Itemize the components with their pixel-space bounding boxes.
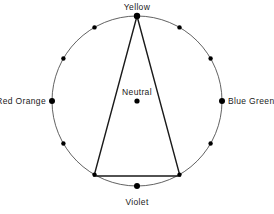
color-wheel-svg: [0, 0, 274, 214]
color-wheel-diagram: Yellow Violet Red Orange Blue Green Neut…: [0, 0, 274, 214]
hue-dot-blue-green: [219, 98, 225, 104]
hue-dot-red: [61, 141, 65, 145]
label-blue-green: Blue Green: [228, 97, 274, 106]
hue-dot-green: [208, 56, 212, 60]
hue-dot-violet: [134, 183, 140, 189]
neutral-center-dot: [134, 98, 139, 103]
hue-dot-red-orange: [49, 98, 55, 104]
label-neutral: Neutral: [122, 88, 152, 97]
label-yellow: Yellow: [124, 3, 150, 12]
label-red-orange: Red Orange: [0, 97, 46, 106]
label-violet: Violet: [125, 198, 148, 207]
hue-dot-yellow-orange: [92, 25, 96, 29]
hue-dot-yellow: [134, 13, 140, 19]
hue-dot-red-violet: [92, 172, 96, 176]
hue-dot-yellow-green: [177, 25, 181, 29]
hue-dot-blue: [208, 141, 212, 145]
hue-dot-blue-violet: [177, 172, 181, 176]
hue-dot-orange: [61, 56, 65, 60]
